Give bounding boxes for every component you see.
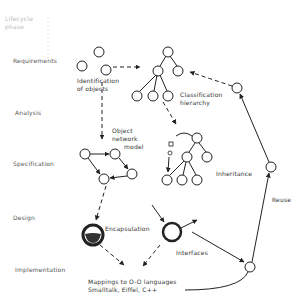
header-line1: Lifecycle [5,15,33,22]
arrow-interfaces-to-reuse [192,232,244,262]
reuse-middle-node [266,162,276,172]
arrow-reuse-up [240,94,269,162]
lifecycle-diagram [0,0,305,307]
arrow-interfaces-to-mappings [143,245,160,266]
interfaces-node [163,223,181,241]
label-inheritance: Inheritance [216,170,252,177]
object-network-model [80,149,137,184]
arrow-interfaces-out [181,220,197,228]
label-encapsulation: Encapsulation [105,225,150,232]
arrow-to-interfaces-node [152,205,164,222]
curve-mappings-to-reuse [185,272,248,290]
label-mappings-2: Smalltalk, Eiffel, C++ [88,286,157,293]
arrow-to-encapsulation [96,186,106,220]
reuse-bottom-node [245,262,255,272]
phase-requirements: Requirements [13,57,57,64]
label-object-network-2: network [112,135,138,142]
phase-specification: Specification [13,160,54,167]
phase-implementation: Implementation [15,266,65,273]
phase-analysis: Analysis [15,109,41,116]
label-classification-2: hierarchy [180,99,210,106]
label-identification-1: Identification [77,77,119,84]
arrow-reuse-lower [252,173,269,262]
label-classification-1: Classification [180,91,223,98]
encapsulation-icon [83,225,103,245]
identification-objects [77,47,111,75]
label-object-network-1: Object [112,127,133,134]
header-line2: phase [5,23,24,30]
label-reuse: Reuse [272,196,291,203]
label-interfaces: Interfaces [176,249,208,256]
reuse-top-node [232,83,242,93]
arrow-encapsulation-to-mappings [100,245,124,265]
arrow-reuse-to-classification [190,72,232,86]
phase-design: Design [13,214,35,221]
classification-hierarchy-tree [132,47,183,101]
inheritance-tree [162,133,212,185]
label-identification-2: of objects [77,85,108,92]
label-object-network-3: model [124,143,144,150]
arrow-to-inheritance [163,102,176,124]
label-mappings-1: Mappings to O-O languages [88,278,177,285]
